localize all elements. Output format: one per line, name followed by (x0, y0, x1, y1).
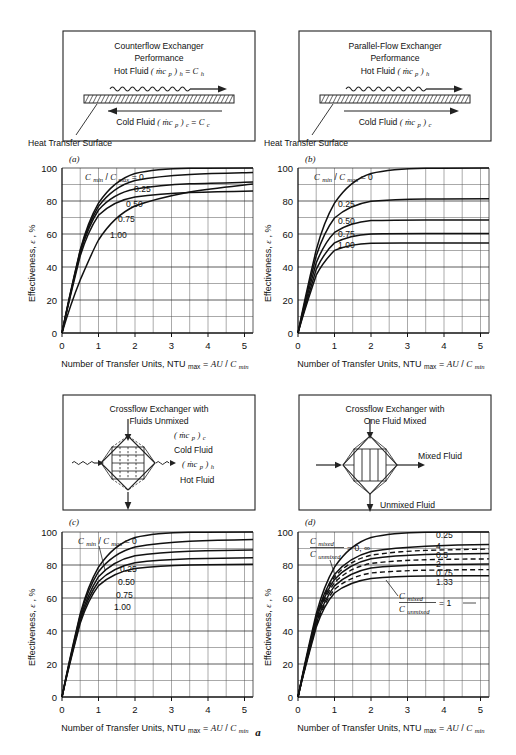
y-axis-title-post: , % (263, 225, 273, 238)
cold-mcp: ṁc (163, 117, 173, 127)
ratio-den-sub: max (111, 540, 122, 547)
hot-paren-open: ( (397, 66, 401, 76)
x-tick-2: 2 (368, 704, 373, 715)
curve-label-3: 1.00 (338, 240, 355, 250)
ratio-label-main: C mixed (310, 536, 335, 547)
y-axis-title: Effectiveness, ε , % (27, 225, 37, 302)
y-axis-title-pre: Effectiveness, (27, 244, 37, 302)
curve-label-0: 0.25 (120, 564, 137, 574)
y-axis-title-pre: Effectiveness, (263, 608, 273, 666)
ratio-eq: = (347, 543, 354, 553)
x-axis-title-den-sub: min (475, 363, 486, 370)
x-tick-0: 0 (59, 704, 64, 715)
x-tick-0: 0 (59, 340, 64, 351)
ratio-den-sub: max (347, 176, 358, 183)
cold-mcp-p: p (191, 434, 196, 441)
x-tick-4: 4 (205, 704, 210, 715)
curve-label-1: 0.50 (118, 577, 135, 587)
x-axis-title-num: AU (446, 359, 459, 369)
header-line2: Performance (370, 53, 419, 63)
ratio2-num: C (399, 591, 405, 601)
y-tick-0: 0 (52, 328, 57, 339)
ratio-num: C (310, 536, 316, 546)
ratio2-num-sub: mixed (407, 595, 423, 602)
cold-sub: c (186, 121, 189, 128)
cold-fluid-label: Cold Fluid (116, 117, 155, 127)
x-tick-2: 2 (132, 340, 137, 351)
ratio-num-sub: min (93, 176, 104, 183)
x-tick-2: 2 (132, 704, 137, 715)
ratio2-label-num: C mixed (399, 591, 424, 602)
hot-paren-close: ) (420, 66, 424, 76)
y-tick-3: 60 (46, 229, 57, 240)
y-tick-2: 40 (282, 262, 293, 273)
panel-id: (b) (305, 154, 316, 164)
y-tick-3: 60 (282, 229, 293, 240)
y-tick-4: 80 (46, 196, 57, 207)
x-tick-4: 4 (441, 340, 446, 351)
hot-paren-close: ) (204, 459, 208, 469)
y-axis-title-eps: ε (263, 604, 273, 608)
panel-crossflow-unmixed: Crossflow Exchanger with Fluids Unmixed … (22, 386, 257, 741)
curve-label-1: 0.50 (126, 199, 143, 209)
ratio2-den-sub: unmixed (407, 608, 430, 615)
hot-fluid-label: Hot Fluid (361, 66, 396, 76)
cold-eq: = (191, 117, 198, 127)
y-tick-1: 20 (282, 659, 293, 670)
x-tick-0: 0 (295, 340, 300, 351)
x-tick-1: 1 (332, 704, 337, 715)
curve-05 (298, 554, 489, 697)
ratio2-value: = 1 (439, 598, 451, 608)
curve-label-1: 0.50 (338, 216, 355, 226)
curve-025 (298, 545, 489, 697)
x-tick-1: 1 (96, 340, 101, 351)
x-tick-2: 2 (368, 340, 373, 351)
x-tick-4: 4 (205, 340, 210, 351)
y-axis-title-eps: ε (27, 604, 37, 608)
hot-mcp-p: p (199, 463, 204, 470)
x-tick-3: 3 (405, 340, 410, 351)
curve-set-dashed (298, 549, 489, 697)
header-line1: Parallel-Flow Exchanger (348, 41, 441, 51)
y-tick-0: 0 (288, 328, 293, 339)
curve-label-3: 1.00 (114, 602, 131, 612)
panel-crossflow-one-mixed: Crossflow Exchanger with One Fluid Mixed (258, 386, 493, 741)
cold-mcp: ṁc (405, 117, 415, 127)
x-axis-title-pre: Number of Transfer Units, NTU (297, 359, 421, 369)
y-axis-title-eps: ε (263, 240, 273, 244)
cold-fluid-label: Cold Fluid (174, 445, 213, 455)
x-axis-title-sub: max (424, 363, 437, 370)
plot-area: C min / C max = 0 0.25 0.50 0.75 1.00 10… (263, 163, 489, 372)
ratio2-val: 1 (446, 598, 451, 608)
curve-2 (298, 559, 489, 697)
panel-d-svg: Crossflow Exchanger with One Fluid Mixed (258, 386, 493, 741)
x-axis-title: Number of Transfer Units, NTU max = AU /… (61, 359, 249, 371)
header-line2: Fluids Unmixed (129, 416, 188, 426)
curve-025 (62, 540, 253, 697)
figure-root: Counterflow Exchanger Performance Hot Fl… (0, 0, 516, 755)
y-tick-2: 40 (46, 626, 57, 637)
cold-sub: c (203, 434, 206, 441)
x-tick-4: 4 (441, 704, 446, 715)
hot-mcp: ṁc (156, 66, 166, 76)
panel-id: (a) (69, 154, 80, 164)
ratio-eq: = (361, 172, 368, 182)
cold-mcp: ṁc (179, 430, 189, 440)
ratio-den: C (110, 172, 116, 182)
y-tick-4: 80 (282, 196, 293, 207)
x-tick-5: 5 (478, 340, 483, 351)
curve-label-0: 0.25 (134, 184, 151, 194)
x-tick-5: 5 (242, 704, 247, 715)
curve-075 (62, 558, 253, 697)
plot-area: C min / C max = 0 0.25 0.50 0.75 1.00 10… (27, 163, 253, 372)
y-tick-1: 20 (46, 295, 57, 306)
x-axis-title-den: C (230, 359, 237, 369)
x-tick-1: 1 (332, 340, 337, 351)
hot-paren-open: ( (182, 459, 186, 469)
ratio-label-den: C unmixed (310, 549, 341, 560)
curve-100 (298, 243, 489, 333)
x-tick-3: 3 (169, 340, 174, 351)
plot-area: C min / C max = 0 0.25 0.50 0.75 1.00 10… (27, 527, 253, 736)
ratio-value: 0 (139, 172, 144, 182)
y-axis-title-post: , % (27, 589, 37, 602)
